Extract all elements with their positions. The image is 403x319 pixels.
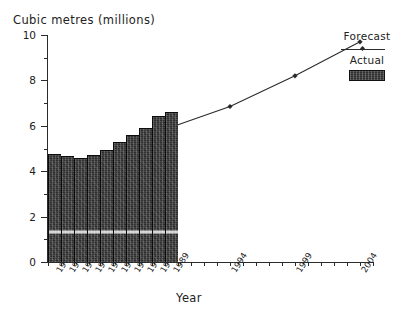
y-tick-major <box>41 262 47 263</box>
y-tick-label: 2 <box>14 211 36 223</box>
x-tick <box>282 262 283 266</box>
x-tick <box>347 262 348 266</box>
y-tick-label: 10 <box>14 29 36 41</box>
y-tick-major <box>41 171 47 172</box>
x-tick <box>48 262 49 266</box>
y-tick-minor <box>44 58 47 59</box>
y-tick-minor <box>44 194 47 195</box>
x-tick <box>256 262 257 266</box>
forecast-data-point <box>292 73 297 78</box>
legend: Forecast Actual <box>333 30 401 81</box>
legend-diamond-marker-icon <box>360 46 365 51</box>
y-tick-label: 4 <box>14 165 36 177</box>
x-tick <box>204 262 205 266</box>
legend-label-actual: Actual <box>333 54 401 67</box>
y-tick-minor <box>44 149 47 150</box>
chart-canvas: Cubic metres (millions) Year 0246810 198… <box>0 0 403 319</box>
legend-label-forecast: Forecast <box>333 30 401 43</box>
x-tick <box>334 262 335 266</box>
y-tick-major <box>41 126 47 127</box>
x-tick <box>269 262 270 266</box>
x-tick <box>321 262 322 266</box>
y-tick-label: 8 <box>14 74 36 86</box>
y-tick-major <box>41 217 47 218</box>
legend-line-sample <box>333 44 401 54</box>
plot-area <box>48 35 373 262</box>
forecast-data-point <box>227 104 232 109</box>
y-tick-label: 6 <box>14 120 36 132</box>
line-series-forecast <box>48 35 373 262</box>
legend-bar-swatch <box>349 70 385 81</box>
y-tick-major <box>41 35 47 36</box>
y-axis-title: Cubic metres (millions) <box>13 13 155 27</box>
y-tick-label: 0 <box>14 256 36 268</box>
y-tick-major <box>41 80 47 81</box>
y-tick-minor <box>44 103 47 104</box>
x-tick <box>217 262 218 266</box>
x-axis-title: Year <box>176 291 202 305</box>
y-tick-minor <box>44 239 47 240</box>
x-tick <box>191 262 192 266</box>
